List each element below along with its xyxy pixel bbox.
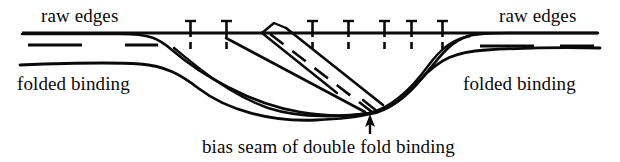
binding-band-notch (262, 23, 286, 33)
basting-dash-group (28, 45, 594, 46)
binding-band-group (226, 23, 383, 112)
binding-band-edge-right (286, 28, 383, 105)
caption-arrow (365, 114, 375, 134)
pin-group (185, 21, 448, 49)
label-raw-edges-left: raw edges (41, 6, 118, 25)
pin-marker (185, 21, 196, 49)
binding-diagram-figure: raw edges raw edges folded binding folde… (0, 0, 620, 162)
caption-bias-seam: bias seam of double fold binding (202, 137, 455, 156)
pin-marker (379, 21, 390, 49)
label-folded-binding-left: folded binding (17, 74, 130, 93)
bias-seam-dashed-group (270, 34, 372, 112)
pin-marker (406, 21, 417, 49)
pin-marker (437, 21, 448, 49)
bias-seam-dashed-line (270, 34, 372, 112)
label-folded-binding-right: folded binding (463, 74, 576, 93)
pin-marker (343, 21, 354, 49)
label-raw-edges-right: raw edges (499, 6, 576, 25)
pin-marker (221, 21, 232, 49)
